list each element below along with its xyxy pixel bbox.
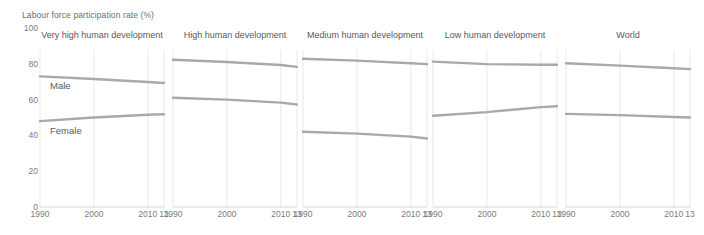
series-line-female (566, 114, 690, 118)
series-label-female: Female (50, 125, 82, 136)
chart-panel: Very high human development1990200020101… (40, 0, 164, 235)
series-line-female (433, 106, 557, 115)
x-tick-label: 1990 (164, 209, 183, 219)
series-line-female (303, 132, 427, 139)
x-tick-label: 1990 (31, 209, 50, 219)
x-tick-label: 2010 (531, 209, 550, 219)
x-tick-label: 2010 (664, 209, 683, 219)
series-line-male (173, 60, 297, 67)
x-tick-label: 2010 (271, 209, 290, 219)
plot-area (173, 0, 297, 235)
y-tick-label: 20 (29, 166, 38, 176)
x-tick-label: 2010 (138, 209, 157, 219)
plot-area (40, 0, 164, 235)
chart-panel: High human development19902000201013 (173, 0, 297, 235)
x-tick-label: 2000 (217, 209, 236, 219)
chart-panel: Medium human development19902000201013 (303, 0, 427, 235)
x-tick-label: 2000 (610, 209, 629, 219)
x-tick-label: 2000 (477, 209, 496, 219)
x-tick-label: 2010 (401, 209, 420, 219)
y-tick-label: 100 (24, 23, 38, 33)
plot-area (433, 0, 557, 235)
x-tick-label: 1990 (424, 209, 443, 219)
x-tick-label: 1990 (557, 209, 576, 219)
plot-area (303, 0, 427, 235)
y-tick-label: 40 (29, 130, 38, 140)
x-tick-label: 13 (685, 209, 694, 219)
series-line-male (433, 62, 557, 65)
y-tick-label: 60 (29, 95, 38, 105)
y-axis-tick-labels: 020406080100 (12, 0, 38, 235)
series-line-female (173, 98, 297, 105)
x-tick-label: 1990 (294, 209, 313, 219)
plot-area (566, 0, 690, 235)
chart-panel: World19902000201013 (566, 0, 690, 235)
y-tick-label: 80 (29, 59, 38, 69)
x-tick-label: 2000 (84, 209, 103, 219)
series-line-male (303, 59, 427, 64)
series-label-male: Male (50, 80, 71, 91)
x-tick-label: 2000 (347, 209, 366, 219)
series-line-female (40, 114, 164, 121)
series-line-male (566, 63, 690, 69)
chart-panel: Low human development19902000201013 (433, 0, 557, 235)
chart-figure: Labour force participation rate (%) 0204… (0, 0, 704, 235)
